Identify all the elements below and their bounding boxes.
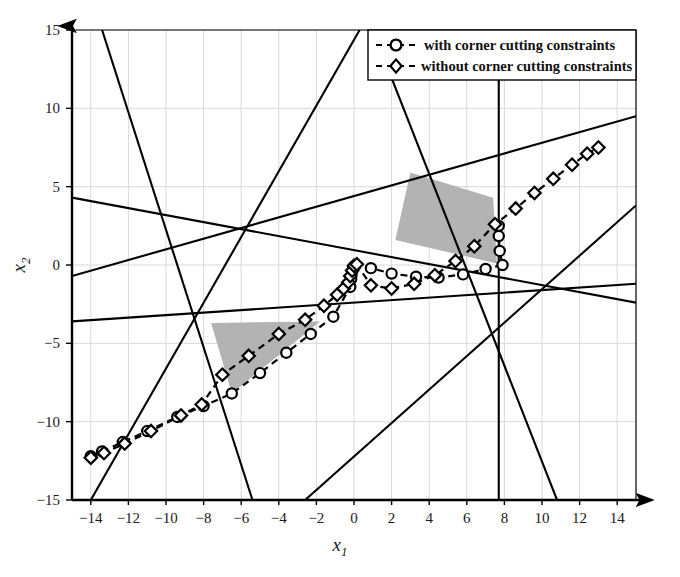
data-point-circle	[458, 269, 468, 279]
y-tick-label: −10	[37, 414, 60, 430]
circle-marker-icon	[391, 40, 402, 51]
data-point-circle	[366, 263, 376, 273]
legend-label-with: with corner cutting constraints	[424, 37, 615, 53]
x-tick-label: −14	[79, 510, 103, 526]
x-tick-label: 12	[572, 510, 587, 526]
x-tick-label: −2	[308, 510, 324, 526]
data-point-circle	[495, 246, 505, 256]
x-tick-label: −10	[154, 510, 177, 526]
legend-label-without: without corner cutting constraints	[421, 58, 633, 74]
x-tick-label: 6	[463, 510, 471, 526]
data-point-circle	[387, 269, 397, 279]
y-tick-label: 15	[45, 22, 60, 38]
x-tick-label: −8	[196, 510, 212, 526]
legend[interactable]: with corner cutting constraints without …	[368, 30, 636, 80]
y-tick-label: 0	[53, 257, 61, 273]
x-tick-label: 4	[425, 510, 433, 526]
x-tick-label: 8	[501, 510, 509, 526]
x-tick-label: 14	[610, 510, 626, 526]
x-tick-label: −6	[233, 510, 249, 526]
data-point-circle	[306, 329, 316, 339]
data-point-circle	[281, 348, 291, 358]
data-point-circle	[328, 312, 338, 322]
data-point-circle	[481, 264, 491, 274]
data-point-circle	[255, 368, 265, 378]
figure-canvas: −14−12−10−8−6−4−202468101214−15−10−50510…	[0, 0, 680, 577]
data-point-circle	[497, 260, 507, 270]
x-tick-label: −12	[117, 510, 140, 526]
y-tick-label: −5	[44, 335, 60, 351]
x-tick-label: 2	[388, 510, 396, 526]
data-point-circle	[494, 231, 504, 241]
y-tick-label: 5	[53, 179, 61, 195]
y-tick-label: −15	[37, 492, 60, 508]
x-tick-label: 10	[535, 510, 550, 526]
x-tick-label: 0	[350, 510, 358, 526]
data-point-circle	[227, 388, 237, 398]
x-tick-label: −4	[271, 510, 287, 526]
y-tick-label: 10	[45, 100, 60, 116]
